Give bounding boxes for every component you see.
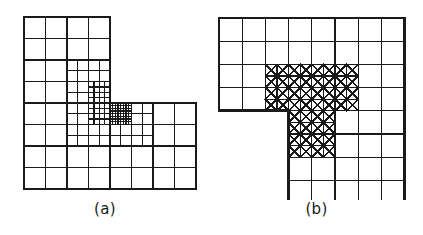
figure-plate: (a) (b): [0, 0, 423, 235]
panel-b-caption: (b): [210, 200, 423, 218]
panel-a: (a): [0, 0, 210, 235]
mesh-diagram-a: [0, 0, 210, 200]
panel-a-caption: (a): [0, 200, 210, 218]
panel-b: (b): [210, 0, 423, 235]
mesh-diagram-b: [210, 0, 423, 200]
